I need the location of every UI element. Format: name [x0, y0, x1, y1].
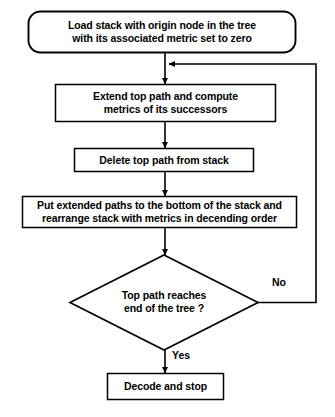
- node-shape-start: [29, 12, 296, 53]
- node-shape-put: [23, 197, 297, 228]
- node-shape-decode: [108, 374, 224, 400]
- flowchart-canvas: Load stack with origin node in the tree …: [0, 0, 335, 417]
- node-shape-extend: [56, 85, 276, 122]
- node-shape-delete: [75, 149, 254, 172]
- node-shape-decide: [70, 255, 258, 350]
- flowchart-graphics: [0, 0, 335, 417]
